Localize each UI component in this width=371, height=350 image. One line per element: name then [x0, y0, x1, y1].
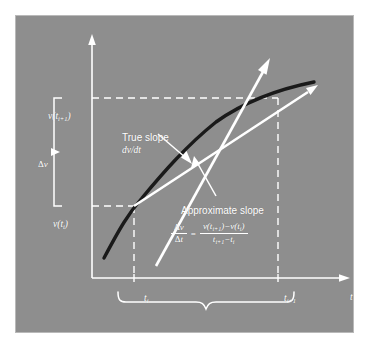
formula-rhs-numerator: v(ti+1)−v(ti) — [200, 221, 248, 234]
x-axis — [92, 274, 350, 282]
y-axis — [88, 34, 96, 278]
delta-v-label: Δv — [38, 160, 48, 169]
approximate-slope-formula: Δv Δt = v(ti+1)−v(ti) ti+1−ti — [171, 221, 248, 246]
true-slope-expression: dv/dt — [122, 146, 141, 156]
formula-rhs: v(ti+1)−v(ti) ti+1−ti — [200, 221, 248, 246]
x-tick-label-right: ti+1 — [284, 294, 296, 304]
formula-rhs-denominator: ti+1−ti — [210, 234, 238, 246]
approximate-slope-arrow — [134, 85, 318, 206]
figure-panel: v(ti+1) v(ti) Δv True slope dv/dt Approx… — [16, 16, 353, 332]
figure-root: v(ti+1) v(ti) Δv True slope dv/dt Approx… — [0, 0, 371, 350]
formula-lhs: Δv Δt — [171, 222, 187, 246]
formula-equals: = — [187, 229, 200, 239]
approximate-slope-label: Approximate slope — [181, 206, 264, 216]
y-label-upper: v(ti+1) — [48, 112, 71, 122]
true-slope-label: True slope — [122, 133, 169, 143]
formula-lhs-denominator: Δt — [172, 234, 186, 245]
x-tick-label-left: ti — [144, 294, 148, 304]
formula-lhs-numerator: Δv — [171, 222, 187, 234]
projection-lines — [92, 98, 278, 278]
x-axis-label: t — [350, 293, 353, 303]
y-label-lower: v(ti) — [53, 220, 68, 230]
figure-graphics — [16, 16, 353, 332]
